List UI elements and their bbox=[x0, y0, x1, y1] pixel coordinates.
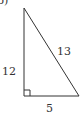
side-label-horizontal: 5 bbox=[46, 103, 53, 114]
side-label-vertical: 12 bbox=[2, 66, 16, 77]
right-angle-marker bbox=[24, 90, 30, 96]
side-label-hypotenuse: 13 bbox=[57, 46, 71, 57]
